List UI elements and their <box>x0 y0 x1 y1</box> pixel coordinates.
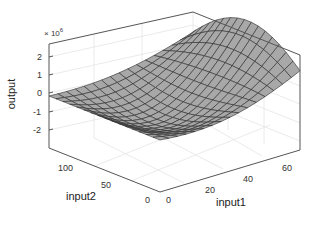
z-tick-2: 2 <box>37 52 42 62</box>
z-tick-1: 1 <box>37 70 42 80</box>
z-exponent-label: × 106 <box>44 27 63 38</box>
y-tick-50: 50 <box>101 180 111 190</box>
z-axis-title: output <box>5 79 17 110</box>
y-tick-100: 100 <box>58 163 73 173</box>
x-axis-title: input1 <box>216 196 246 208</box>
x-tick-60: 60 <box>282 163 292 173</box>
z-tick-neg1: -1 <box>33 107 41 117</box>
x-tick-0: 0 <box>166 195 171 205</box>
y-tick-0: 0 <box>145 195 150 205</box>
z-tick-0: 0 <box>37 88 42 98</box>
x-tick-20: 20 <box>205 185 215 195</box>
x-tick-40: 40 <box>243 174 253 184</box>
y-axis-title: input2 <box>66 190 96 202</box>
z-tick-neg2: -2 <box>33 125 41 135</box>
